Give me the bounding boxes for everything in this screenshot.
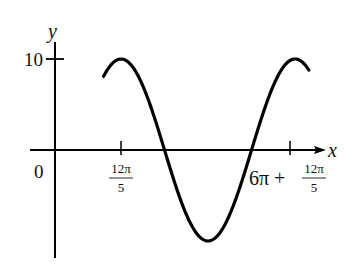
y-axis-label: y [46, 20, 57, 43]
sinusoid-chart: y x 10 0 12π 5 6π + 12π 5 [0, 0, 357, 267]
fraction-numerator: 12π [111, 161, 131, 176]
fraction-numerator: 12π [304, 161, 324, 176]
x-tick-label-0: 0 [34, 161, 44, 182]
y-tick-label-10: 10 [24, 49, 43, 70]
label-prefix: 6π + [249, 167, 285, 189]
x-axis-label: x [327, 139, 337, 161]
x-tick-label-12pi-over-5: 12π 5 [109, 161, 133, 195]
x-tick-label-6pi-plus-12pi-over-5: 6π + 12π 5 [249, 161, 326, 195]
fraction-denominator: 5 [118, 180, 125, 195]
fraction-denominator: 5 [311, 180, 318, 195]
